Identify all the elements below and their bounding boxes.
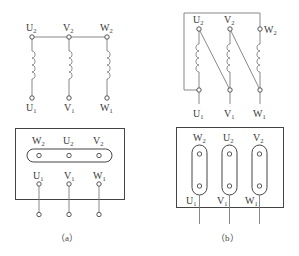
box-b-label-w1: W1 <box>245 195 258 207</box>
terminal-u1-b <box>197 88 201 92</box>
box-a-label-v1: V1 <box>64 170 74 182</box>
box-b-terminal-w1 <box>257 184 261 188</box>
label-u2-a: U2 <box>26 22 36 34</box>
label-v1-b: V1 <box>224 108 234 120</box>
supply-terminal-2-a <box>67 212 71 216</box>
label-u1-a: U1 <box>26 102 36 114</box>
box-a-terminal-v1 <box>67 182 71 186</box>
box-a-terminal-v2 <box>97 153 101 157</box>
caption-b: （b） <box>216 233 239 243</box>
label-w1-b: W1 <box>253 108 266 120</box>
box-a-label-w1: W1 <box>93 170 106 182</box>
diagram-b-windings: U2 V2 W2 U1 V1 W1 <box>184 13 277 120</box>
label-v2-b: V2 <box>224 14 234 26</box>
box-a-label-u1: U1 <box>33 170 43 182</box>
coil-v-a <box>69 37 72 97</box>
terminal-v2-b <box>228 27 232 31</box>
box-a-terminal-w1 <box>97 182 101 186</box>
supply-terminal-3-a <box>97 212 101 216</box>
box-b-label-v1: V1 <box>217 195 227 207</box>
terminal-u1-a <box>30 96 34 100</box>
coil-w-b <box>257 29 260 90</box>
box-b-terminal-u2 <box>227 152 231 156</box>
link-u2-v1 <box>199 29 230 90</box>
link-v2-w1 <box>230 29 260 90</box>
terminal-w1-b <box>258 88 262 92</box>
motor-wiring-diagram: U2 V2 W2 U1 V1 W1 W2 U2 V2 U1 V1 W1 （a） <box>0 0 299 256</box>
terminal-v1-b <box>228 88 232 92</box>
box-a-label-w2: W2 <box>32 135 45 147</box>
box-b-terminal-u1 <box>197 184 201 188</box>
label-u1-b: U1 <box>193 108 203 120</box>
box-b-label-u1: U1 <box>186 195 196 207</box>
box-b-label-v2: V2 <box>253 132 263 144</box>
box-b-terminal-v1 <box>227 184 231 188</box>
terminal-w2-a <box>105 35 109 39</box>
diagram-a-windings: U2 V2 W2 U1 V1 W1 <box>26 22 113 114</box>
label-w2-a: W2 <box>100 22 113 34</box>
box-a-label-u2: U2 <box>63 135 73 147</box>
terminal-w2-b <box>258 27 262 31</box>
caption-a: （a） <box>56 233 78 243</box>
terminal-v1-a <box>67 96 71 100</box>
box-a-terminal-w2 <box>37 153 41 157</box>
terminal-w1-a <box>105 96 109 100</box>
label-w1-a: W1 <box>100 102 113 114</box>
terminal-v2-a <box>67 35 71 39</box>
box-a-terminal-u1 <box>37 182 41 186</box>
coil-u-b <box>196 29 199 90</box>
label-v2-a: V2 <box>63 22 73 34</box>
box-b-label-w2: W2 <box>193 132 206 144</box>
supply-terminal-1-a <box>37 212 41 216</box>
label-u2-b: U2 <box>193 14 203 26</box>
coil-u-a <box>32 37 35 97</box>
terminal-box-b: W2 U2 V2 U1 V1 W1 <box>177 128 284 225</box>
terminal-u2-a <box>30 35 34 39</box>
box-b-label-u2: U2 <box>223 132 233 144</box>
coil-v-b <box>227 29 230 90</box>
coil-w-a <box>107 37 110 97</box>
terminal-box-a: W2 U2 V2 U1 V1 W1 <box>16 129 125 217</box>
box-a-label-v2: V2 <box>93 135 103 147</box>
box-b-terminal-v2 <box>257 152 261 156</box>
terminal-u2-b <box>197 27 201 31</box>
label-v1-a: V1 <box>64 102 74 114</box>
label-w2-b: W2 <box>264 24 277 36</box>
box-a-terminal-u2 <box>67 153 71 157</box>
box-b-terminal-w2 <box>197 152 201 156</box>
